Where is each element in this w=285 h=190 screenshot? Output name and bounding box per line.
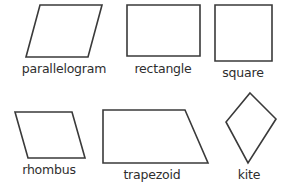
quadrilaterals-figure: parallelogramrectanglesquarerhombustrape… [0, 0, 285, 190]
shape-kite [0, 0, 285, 190]
shape-outline-kite [226, 93, 276, 163]
shape-label-kite: kite [179, 168, 285, 182]
